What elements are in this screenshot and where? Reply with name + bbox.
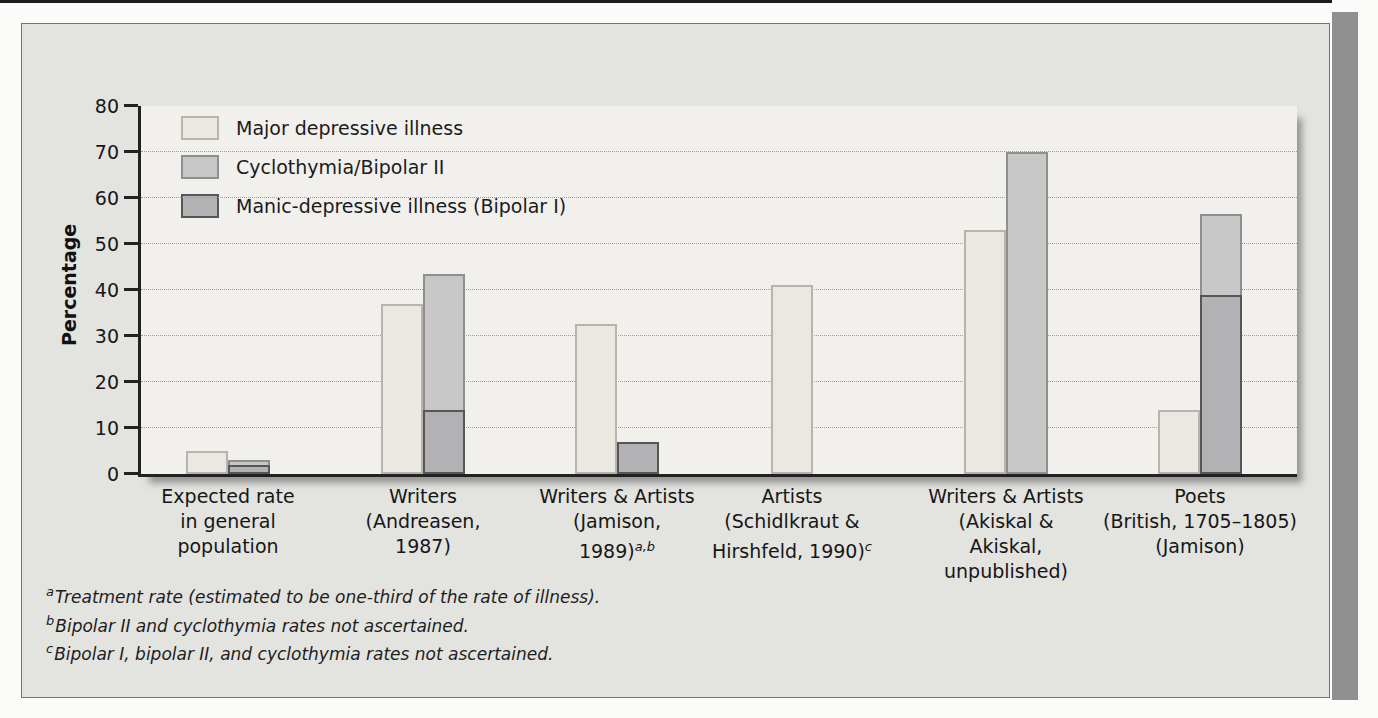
- y-tick-label: 0: [69, 462, 119, 486]
- x-axis-category-label: Artists(Schidlkraut &Hirshfeld, 1990)c: [672, 484, 912, 564]
- footnotes: aTreatment rate (estimated to be one-thi…: [46, 580, 600, 666]
- legend-label: Cyclothymia/Bipolar II: [236, 156, 444, 178]
- footnote: aTreatment rate (estimated to be one-thi…: [46, 580, 600, 609]
- y-tick: [124, 334, 138, 337]
- y-tick: [124, 426, 138, 429]
- bar-cyclothymia-bipolar-ii: [1006, 152, 1048, 474]
- figure-panel: Percentage Major depressive illness Cycl…: [21, 23, 1330, 698]
- gridline: [141, 243, 1297, 244]
- bar-manic-depressive-bipolar-i: [423, 410, 465, 474]
- y-tick: [124, 472, 138, 475]
- y-tick-label: 70: [69, 140, 119, 164]
- gridline: [141, 151, 1297, 152]
- y-tick-label: 20: [69, 370, 119, 394]
- gridline: [141, 335, 1297, 336]
- top-rule: [0, 0, 1332, 3]
- y-tick: [124, 150, 138, 153]
- y-tick-label: 30: [69, 324, 119, 348]
- x-axis-category-label: Poets(British, 1705–1805)(Jamison): [1080, 484, 1320, 559]
- legend-row: Cyclothymia/Bipolar II: [181, 155, 566, 179]
- footnote-text: Bipolar II and cyclothymia rates not asc…: [55, 615, 469, 635]
- legend-label: Manic-depressive illness (Bipolar I): [236, 195, 566, 217]
- legend-row: Major depressive illness: [181, 116, 566, 140]
- bar-major-depressive: [381, 304, 423, 474]
- legend: Major depressive illness Cyclothymia/Bip…: [181, 116, 566, 233]
- y-tick-label: 10: [69, 416, 119, 440]
- y-tick-label: 60: [69, 186, 119, 210]
- footnote: cBipolar I, bipolar II, and cyclothymia …: [46, 637, 600, 666]
- footnote-text: Treatment rate (estimated to be one-thir…: [55, 587, 600, 607]
- gridline: [141, 381, 1297, 382]
- y-tick: [124, 242, 138, 245]
- bar-manic-depressive-bipolar-i: [228, 465, 270, 474]
- footnote-marker: c: [46, 641, 53, 656]
- bar-manic-depressive-bipolar-i: [617, 442, 659, 474]
- bar-major-depressive: [964, 230, 1006, 474]
- footnote-text: Bipolar I, bipolar II, and cyclothymia r…: [54, 644, 553, 664]
- footnote-marker: b: [46, 613, 54, 628]
- y-tick: [124, 104, 138, 107]
- legend-swatch-major-depressive: [181, 116, 219, 140]
- gridline: [141, 197, 1297, 198]
- gridline: [141, 427, 1297, 428]
- legend-label: Major depressive illness: [236, 117, 463, 139]
- y-tick: [124, 380, 138, 383]
- y-tick-label: 40: [69, 278, 119, 302]
- footnote: bBipolar II and cyclothymia rates not as…: [46, 609, 600, 638]
- bar-major-depressive: [186, 451, 228, 474]
- y-tick: [124, 196, 138, 199]
- plot-area: Percentage Major depressive illness Cycl…: [138, 106, 1297, 477]
- footnote-marker: a: [46, 584, 54, 599]
- footnote-marker: a,b: [635, 539, 655, 554]
- bar-major-depressive: [575, 324, 617, 474]
- page-edge-strip: [1332, 12, 1358, 700]
- footnote-marker: c: [865, 539, 872, 554]
- bar-manic-depressive-bipolar-i: [1200, 295, 1242, 474]
- y-tick-label: 50: [69, 232, 119, 256]
- gridline: [141, 289, 1297, 290]
- y-tick: [124, 288, 138, 291]
- bar-major-depressive: [1158, 410, 1200, 474]
- bar-major-depressive: [771, 285, 813, 474]
- y-tick-label: 80: [69, 94, 119, 118]
- legend-swatch-cyclothymia-bipolar-ii: [181, 155, 219, 179]
